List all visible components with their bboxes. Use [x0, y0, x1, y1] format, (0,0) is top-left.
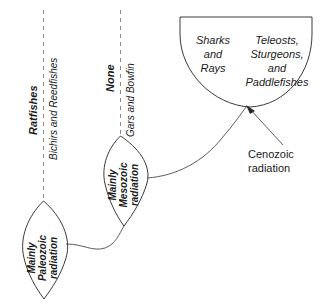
evolutionary-radiation-diagram: Ratfishes Bichirs and Reedfishes None Ga… — [0, 0, 322, 308]
paleozoic-label-line1: Mainly — [26, 242, 37, 274]
branch-curve-paleozoic-to-mesozoic — [66, 226, 124, 249]
crown-left-group-label: Sharks and Rays — [196, 34, 231, 74]
crown-right-group-label: Teleosts, Sturgeons, and Paddlefishes — [246, 34, 309, 88]
paleozoic-label-line2: Paleozoic — [37, 235, 48, 282]
teleosts-label-line1: Teleosts, — [255, 34, 299, 46]
sharks-label-line3: Rays — [200, 62, 226, 74]
cenozoic-annotation-line1: Cenozoic — [248, 148, 294, 160]
label-ratfishes: Ratfishes — [27, 85, 39, 135]
cenozoic-annotation-line2: radiation — [248, 162, 290, 174]
branch-curve-mesozoic-to-crown — [147, 107, 246, 178]
cenozoic-annotation-leader-line — [249, 108, 283, 145]
sharks-label-line1: Sharks — [196, 34, 231, 46]
sharks-label-line2: and — [204, 48, 223, 60]
label-none: None — [104, 65, 116, 93]
teleosts-label-line2: Sturgeons, — [250, 48, 303, 60]
paleozoic-radiation-label: Mainly Paleozoic radiation — [26, 235, 59, 282]
mesozoic-label-line1: Mainly — [107, 169, 118, 201]
cenozoic-radiation-annotation: Cenozoic radiation — [248, 148, 294, 174]
mesozoic-label-line2: Mesozoic — [118, 162, 129, 207]
paleozoic-label-line3: radiation — [48, 237, 59, 279]
teleosts-label-line3: and — [268, 62, 287, 74]
mesozoic-label-line3: radiation — [129, 164, 140, 206]
teleosts-label-line4: Paddlefishes — [246, 76, 309, 88]
mesozoic-radiation-label: Mainly Mesozoic radiation — [107, 162, 140, 207]
label-bichirs-and-reedfishes: Bichirs and Reedfishes — [48, 58, 59, 160]
label-gars-and-bowfin: Gars and Bowfin — [125, 63, 136, 137]
